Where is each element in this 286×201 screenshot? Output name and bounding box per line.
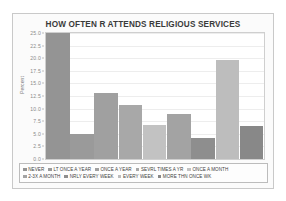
legend-swatch-icon [187,168,191,172]
y-axis-tick: 17.5 [30,68,41,74]
legend-swatch-icon [118,175,122,179]
legend-item[interactable]: EVERY WEEK [118,173,154,180]
y-axis-tick: 7.5 [33,118,41,124]
y-axis-tick: 20.0 [30,55,41,61]
y-axis-tick-mark [42,83,44,84]
bar [70,134,94,159]
legend-label: EVERY WEEK [123,173,154,180]
bar-series [46,33,264,159]
legend-label: ONCE A YEAR [100,166,131,173]
y-axis-tick-mark [42,133,44,134]
legend-swatch-icon [136,168,140,172]
legend-item[interactable]: LT ONCE A YEAR [48,166,91,173]
y-axis-tick-mark [42,108,44,109]
legend-swatch-icon [95,168,99,172]
y-axis-tick-labels: 0.02.55.07.510.012.515.017.520.022.525.0 [13,32,44,160]
legend-item[interactable]: ONCE A YEAR [95,166,132,173]
legend-label: LT ONCE A YEAR [53,166,91,173]
legend-item[interactable]: MORE THN ONCE WK [158,173,212,180]
legend-label: ONCE A MONTH [192,166,228,173]
bar [94,93,118,159]
legend-swatch-icon [23,175,27,179]
y-axis-tick-mark [42,96,44,97]
y-axis-tick-mark [42,146,44,147]
y-axis-tick-mark [42,45,44,46]
y-axis-tick: 12.5 [30,93,41,99]
bar [119,105,143,159]
legend-swatch-icon [158,175,162,179]
y-axis-tick: 25.0 [30,30,41,36]
legend-label: NEVER [28,166,44,173]
chart-figure: HOW OFTEN R ATTENDS RELIGIOUS SERVICES P… [12,13,274,189]
bar [191,138,215,159]
legend-swatch-icon [48,168,52,172]
y-axis-tick-mark [42,58,44,59]
legend-label: SEVRL TIMES A YR [141,166,183,173]
bar [240,126,264,159]
legend-swatch-icon [64,175,68,179]
chart-legend: NEVERLT ONCE A YEARONCE A YEARSEVRL TIME… [19,163,268,183]
bar [46,33,70,159]
y-axis-tick-mark [42,159,44,160]
y-axis-tick-mark [42,33,44,34]
legend-item[interactable]: 2-3X A MONTH [23,173,60,180]
legend-item[interactable]: ONCE A MONTH [187,166,228,173]
y-axis-tick: 2.5 [33,143,41,149]
legend-label: NRLY EVERY WEEK [70,173,114,180]
bar [216,60,240,159]
y-axis-tick-mark [42,121,44,122]
legend-label: MORE THN ONCE WK [163,173,211,180]
bar [167,114,191,159]
y-axis-tick: 15.0 [30,80,41,86]
bar [143,125,167,159]
legend-item[interactable]: NRLY EVERY WEEK [64,173,113,180]
y-axis-tick-mark [42,70,44,71]
legend-item[interactable]: NEVER [23,166,44,173]
y-axis-tick: 22.5 [30,43,41,49]
y-axis-tick: 10.0 [30,106,41,112]
y-axis-tick: 5.0 [33,131,41,137]
legend-label: 2-3X A MONTH [28,173,60,180]
legend-swatch-icon [23,168,27,172]
legend-row: 2-3X A MONTHNRLY EVERY WEEKEVERY WEEKMOR… [23,173,264,180]
legend-item[interactable]: SEVRL TIMES A YR [136,166,184,173]
legend-row: NEVERLT ONCE A YEARONCE A YEARSEVRL TIME… [23,166,264,173]
chart-title: HOW OFTEN R ATTENDS RELIGIOUS SERVICES [13,20,273,29]
y-axis-tick: 0.0 [33,156,41,162]
